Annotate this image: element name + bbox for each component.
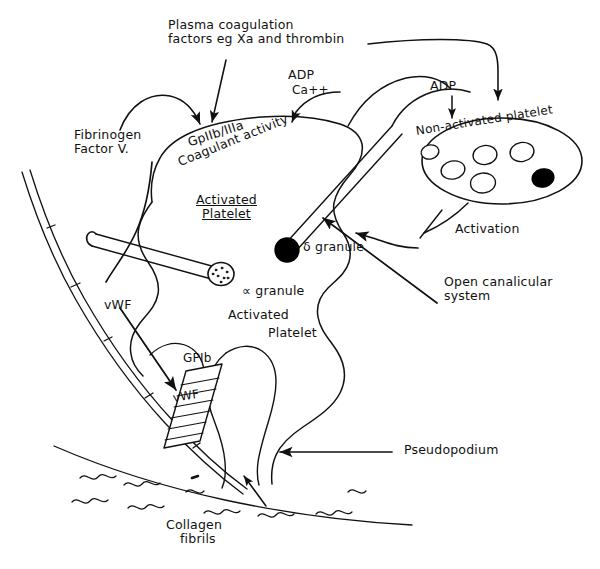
activated-platelet-outline	[130, 116, 362, 484]
subendothelial-surface	[54, 446, 412, 525]
label-activated-platelet-body-line2: Platelet	[268, 326, 317, 340]
arrow-activation	[356, 233, 418, 248]
label-activation: Activation	[455, 222, 520, 236]
label-vwf-arrow: vWF	[104, 298, 132, 312]
fibrinogen-line1: Fibrinogen	[74, 127, 141, 142]
label-ca-left: Ca++	[292, 84, 329, 97]
label-alpha-granule: ∝ granule	[242, 284, 304, 298]
label-plasma-coagulation-factors: Plasma coagulationfactors eg Xa and thro…	[168, 18, 344, 46]
leader-activation	[420, 210, 442, 238]
collagen-line1: Collagen	[166, 517, 222, 532]
plasma-factors-line2: factors eg Xa and thrombin	[168, 31, 344, 46]
activated-platelet-heading-line1: Activated	[196, 192, 257, 207]
alpha-granule-stalk	[87, 232, 219, 280]
delta-granule-head	[275, 238, 299, 262]
label-adp-right: ADP	[430, 79, 456, 93]
curve-fibrinogen-down	[106, 162, 152, 282]
arrow-plasma-to-gpiibiiia	[212, 60, 226, 122]
collagen-fibrils	[72, 475, 366, 517]
label-pseudopodium: Pseudopodium	[404, 443, 499, 457]
plasma-factors-line1: Plasma coagulation	[168, 17, 294, 32]
fibrinogen-line2: Factor V.	[74, 141, 129, 156]
label-open-canalicular-system: Open canalicularsystem	[444, 275, 553, 303]
open-canalicular-line2: system	[444, 288, 490, 303]
vwf-box	[164, 364, 222, 448]
label-activated-platelet-heading: ActivatedPlatelet	[196, 193, 257, 221]
alpha-granule-head	[208, 263, 234, 286]
arrow-open-canalicular	[323, 218, 437, 303]
label-collagen-fibrils: Collagenfibrils	[166, 518, 222, 546]
label-fibrinogen-factor-v: FibrinogenFactor V.	[74, 128, 141, 156]
label-adp-left: ADP	[288, 68, 314, 82]
collagen-pointer-arrow	[244, 476, 266, 506]
delta-granule-stalk	[286, 126, 402, 251]
label-delta-granule: δ granule	[303, 240, 364, 254]
label-activated-platelet-body-line1: Activated	[228, 308, 289, 322]
arrow-vwf-to-box	[120, 308, 176, 390]
arrow-fibrinogen-to-gpiibiiia	[120, 95, 200, 130]
open-canalicular-line1: Open canalicular	[444, 274, 553, 289]
platelet-activation-diagram: Plasma coagulationfactors eg Xa and thro…	[0, 0, 600, 569]
label-gpib: GPIb	[183, 352, 212, 365]
collagen-line2: fibrils	[180, 531, 216, 546]
activated-platelet-heading-line2: Platelet	[202, 206, 251, 221]
